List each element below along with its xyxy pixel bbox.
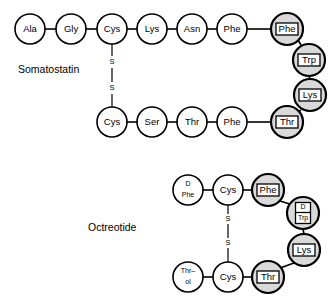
- residue-label-oct-lys: Lys: [297, 244, 312, 255]
- residue-label-top-oct-throl: Thr–: [181, 267, 196, 274]
- residue-label-top-oct-dtrp: D: [300, 203, 305, 210]
- residue-sst-thr2[interactable]: Thr: [271, 106, 303, 138]
- peptide-group-octreotide: SSDPheCysPheDTrpLysThrCysThr–olOctreotid…: [88, 174, 320, 293]
- peptide-name-somatostatin: Somatostatin: [18, 63, 79, 75]
- residue-label-bottom-oct-dtrp: Trp: [298, 214, 308, 222]
- residue-label-sst-thr2: Thr: [280, 116, 294, 127]
- residue-label-sst-lys1: Lys: [145, 23, 160, 34]
- sulfur-label-0: S: [225, 214, 230, 223]
- bond-line-octreotide-4: [280, 263, 294, 268]
- peptide-diagram: SSAlaGlyCysLysAsnPhePheTrpLysThrPheThrSe…: [0, 0, 332, 299]
- residue-label-sst-asn: Asn: [184, 23, 200, 34]
- residue-label-sst-cys2: Cys: [104, 116, 121, 127]
- residue-sst-cys2[interactable]: Cys: [97, 107, 127, 137]
- residue-label-sst-ala: Ala: [23, 23, 37, 34]
- residue-oct-throl[interactable]: Thr–ol: [173, 262, 203, 292]
- residue-sst-trp[interactable]: Trp: [293, 44, 325, 76]
- residue-label-oct-thr2: Thr: [261, 271, 275, 282]
- residue-label-sst-gly: Gly: [64, 23, 79, 34]
- residue-label-sst-cys1: Cys: [104, 23, 121, 34]
- residue-sst-phe2[interactable]: Phe: [271, 13, 303, 45]
- residue-label-sst-phe1: Phe: [224, 23, 241, 34]
- residue-sst-asn[interactable]: Asn: [177, 14, 207, 44]
- residue-label-top-oct-dphe: D: [185, 180, 190, 187]
- residue-sst-ser[interactable]: Ser: [137, 107, 167, 137]
- residue-sst-gly[interactable]: Gly: [56, 14, 86, 44]
- residue-sst-phe3[interactable]: Phe: [217, 107, 247, 137]
- residue-label-sst-lys2: Lys: [303, 89, 318, 100]
- peptide-diagram-canvas: SSAlaGlyCysLysAsnPhePheTrpLysThrPheThrSe…: [0, 0, 332, 299]
- peptide-name-octreotide: Octreotide: [88, 221, 137, 233]
- peptide-group-somatostatin: SSAlaGlyCysLysAsnPhePheTrpLysThrPheThrSe…: [15, 13, 326, 138]
- residue-oct-phe[interactable]: Phe: [252, 174, 284, 206]
- residue-sst-cys1[interactable]: Cys: [97, 14, 127, 44]
- residue-oct-dtrp[interactable]: DTrp: [287, 197, 319, 229]
- residue-sst-phe1[interactable]: Phe: [217, 14, 247, 44]
- residue-label-bottom-oct-dphe: Phe: [182, 191, 195, 198]
- sulfur-label-1: S: [109, 83, 114, 92]
- residue-label-sst-trp: Trp: [302, 54, 316, 65]
- residue-label-oct-cys1: Cys: [220, 184, 237, 195]
- disulfide-bridge-somatostatin: SS: [109, 44, 114, 107]
- residue-oct-thr2[interactable]: Thr: [252, 261, 284, 293]
- residue-sst-lys1[interactable]: Lys: [137, 14, 167, 44]
- residue-oct-cys2[interactable]: Cys: [213, 262, 243, 292]
- residue-label-bottom-oct-throl: ol: [185, 278, 191, 285]
- residue-label-sst-ser: Ser: [145, 116, 160, 127]
- residue-oct-lys[interactable]: Lys: [288, 234, 320, 266]
- residue-sst-lys2[interactable]: Lys: [294, 79, 326, 111]
- residue-oct-cys1[interactable]: Cys: [213, 175, 243, 205]
- disulfide-bridge-octreotide: SS: [225, 205, 230, 262]
- residue-label-oct-phe: Phe: [260, 184, 277, 195]
- residue-sst-ala[interactable]: Ala: [15, 14, 45, 44]
- residue-label-sst-phe3: Phe: [224, 116, 241, 127]
- residue-sst-thr1[interactable]: Thr: [177, 107, 207, 137]
- residue-label-sst-thr1: Thr: [185, 116, 199, 127]
- residue-label-sst-phe2: Phe: [279, 23, 296, 34]
- residue-label-oct-cys2: Cys: [220, 271, 237, 282]
- sulfur-label-0: S: [109, 57, 114, 66]
- sulfur-label-1: S: [225, 238, 230, 247]
- residue-oct-dphe[interactable]: DPhe: [173, 175, 203, 205]
